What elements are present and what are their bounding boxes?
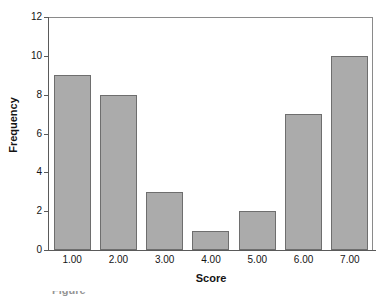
x-tick-label: 7.00 — [327, 254, 373, 266]
x-axis-title: Score — [49, 272, 373, 284]
bar — [146, 192, 183, 250]
bar — [54, 75, 91, 250]
bar — [192, 231, 229, 250]
bar-slot — [49, 17, 95, 250]
bar-slot — [327, 17, 373, 250]
bar — [331, 56, 368, 250]
caption-fragment: Figure — [52, 291, 98, 303]
bar — [100, 95, 137, 250]
y-tick-label: 6 — [22, 129, 42, 139]
bar-slot — [142, 17, 188, 250]
bar-slot — [234, 17, 280, 250]
y-axis-title-text: Frequency — [7, 97, 19, 153]
y-tick-label: 8 — [22, 90, 42, 100]
y-tick-label: 12 — [22, 12, 42, 22]
y-tick-label: 0 — [22, 245, 42, 255]
x-tick-label: 6.00 — [280, 254, 326, 266]
caption-fragment-text: Figure — [52, 291, 98, 296]
x-tick-label: 1.00 — [49, 254, 95, 266]
frequency-histogram-chart: Frequency 0 2 4 6 8 10 12 1.00 2.00 3 — [0, 0, 381, 303]
x-tick-label: 2.00 — [95, 254, 141, 266]
bars-area — [49, 17, 373, 250]
x-tick-label: 3.00 — [142, 254, 188, 266]
bar-slot — [280, 17, 326, 250]
y-axis-tick-labels: 0 2 4 6 8 10 12 — [22, 0, 42, 303]
x-tick-label: 5.00 — [234, 254, 280, 266]
bar — [285, 114, 322, 250]
y-tick-label: 10 — [22, 51, 42, 61]
x-axis-tick-labels: 1.00 2.00 3.00 4.00 5.00 6.00 7.00 — [49, 254, 373, 270]
x-tick-label: 4.00 — [188, 254, 234, 266]
y-tick-label: 2 — [22, 206, 42, 216]
y-tick-label: 4 — [22, 167, 42, 177]
x-axis-line — [44, 250, 376, 251]
bar-slot — [188, 17, 234, 250]
bar — [239, 211, 276, 250]
bar-slot — [95, 17, 141, 250]
